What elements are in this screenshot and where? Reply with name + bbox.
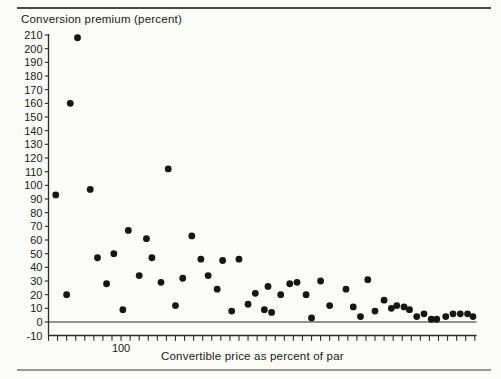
y-tick-label: 20 <box>30 289 42 301</box>
y-tick-label: 80 <box>30 207 42 219</box>
y-tick-label: 170 <box>24 84 42 96</box>
data-point <box>172 302 179 309</box>
data-point <box>125 227 132 234</box>
data-point <box>52 191 59 198</box>
data-point <box>413 313 420 320</box>
y-tick-label: 160 <box>24 97 42 109</box>
y-tick-label: 100 <box>24 179 42 191</box>
x-tick-label: 100 <box>112 342 130 354</box>
data-point <box>197 256 204 263</box>
data-point <box>236 256 243 263</box>
data-point <box>393 302 400 309</box>
data-point <box>74 34 81 41</box>
y-tick-label: -10 <box>27 330 43 342</box>
data-point <box>214 286 221 293</box>
data-point <box>119 306 126 313</box>
data-point <box>442 313 449 320</box>
data-point <box>265 283 272 290</box>
data-point <box>158 279 165 286</box>
data-point <box>67 100 74 107</box>
data-point <box>268 309 275 316</box>
data-point <box>343 286 350 293</box>
data-point <box>350 304 357 311</box>
data-point <box>136 272 143 279</box>
data-point <box>228 308 235 315</box>
data-point <box>326 302 333 309</box>
y-tick-label: 180 <box>24 70 42 82</box>
y-tick-label: 30 <box>30 275 42 287</box>
y-tick-label: 10 <box>30 302 42 314</box>
figure: Conversion premium (percent) 21020019018… <box>0 0 501 379</box>
y-tick-label: 90 <box>30 193 42 205</box>
y-tick-label: 130 <box>24 138 42 150</box>
data-point <box>433 316 440 323</box>
data-point <box>406 306 413 313</box>
y-tick-label: 60 <box>30 234 42 246</box>
data-point <box>317 278 324 285</box>
data-point <box>381 297 388 304</box>
y-tick-label: 150 <box>24 111 42 123</box>
scatter-plot: 2102001901801701601501401301201101009080… <box>0 0 501 379</box>
data-point <box>286 280 293 287</box>
data-point <box>179 275 186 282</box>
data-point <box>110 250 117 257</box>
y-tick-label: 0 <box>36 316 42 328</box>
y-tick-label: 190 <box>24 56 42 68</box>
data-point <box>165 166 172 173</box>
data-point <box>245 301 252 308</box>
data-point <box>219 257 226 264</box>
y-tick-label: 70 <box>30 220 42 232</box>
data-point <box>450 310 457 317</box>
data-point <box>87 186 94 193</box>
data-point <box>457 310 464 317</box>
y-tick-label: 120 <box>24 152 42 164</box>
y-tick-label: 200 <box>24 43 42 55</box>
y-tick-label: 50 <box>30 248 42 260</box>
data-point <box>277 291 284 298</box>
data-point <box>470 313 477 320</box>
y-tick-label: 40 <box>30 261 42 273</box>
data-point <box>294 279 301 286</box>
data-point <box>148 254 155 261</box>
x-axis-label: Convertible price as percent of par <box>161 350 344 362</box>
data-point <box>103 280 110 287</box>
data-point <box>94 254 101 261</box>
data-point <box>308 314 315 321</box>
data-point <box>63 291 70 298</box>
y-tick-label: 140 <box>24 125 42 137</box>
data-point <box>261 306 268 313</box>
data-point <box>188 232 195 239</box>
bottom-rule <box>17 369 491 371</box>
y-tick-label: 210 <box>24 29 42 41</box>
data-point <box>205 272 212 279</box>
data-point <box>303 291 310 298</box>
data-point <box>357 313 364 320</box>
data-point <box>252 290 259 297</box>
data-point <box>143 235 150 242</box>
data-point <box>372 308 379 315</box>
y-tick-label: 110 <box>25 166 43 178</box>
data-point <box>364 276 371 283</box>
data-point <box>421 310 428 317</box>
